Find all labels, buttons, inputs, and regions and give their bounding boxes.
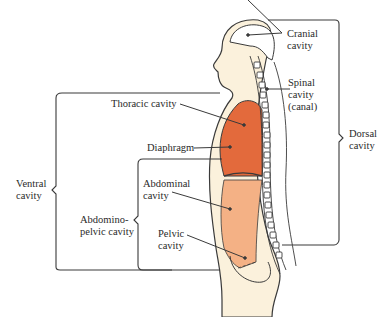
- anatomy-figure: [0, 0, 391, 317]
- label-line: Pelvic: [158, 228, 184, 240]
- label-line: Spinal: [288, 77, 317, 89]
- label-line: cavity: [287, 40, 318, 52]
- dorsal-bracket: [268, 20, 343, 245]
- label-spinal-cavity: Spinal cavity (canal): [288, 77, 317, 113]
- label-thoracic-cavity: Thoracic cavity: [111, 98, 177, 110]
- label-line: Cranial: [287, 28, 318, 40]
- label-line: Abdominal: [143, 178, 190, 190]
- abdominal-cavity-shape: [221, 180, 262, 268]
- label-line: cavity: [158, 240, 184, 252]
- label-line: cavity: [16, 190, 46, 202]
- label-ventral-cavity: Ventral cavity: [16, 178, 46, 202]
- label-line: cavity: [288, 89, 317, 101]
- body-cavities-diagram: Cranial cavity Spinal cavity (canal) Dor…: [0, 0, 391, 317]
- label-line: cavity: [143, 190, 190, 202]
- label-line: cavity: [349, 140, 377, 152]
- label-line: Abdomino-: [80, 214, 134, 226]
- label-dorsal-cavity: Dorsal cavity: [349, 128, 377, 152]
- label-cranial-cavity: Cranial cavity: [287, 28, 318, 52]
- label-line: pelvic cavity: [80, 226, 134, 238]
- ventral-bracket: [52, 93, 220, 270]
- label-abdominal-cavity: Abdominal cavity: [143, 178, 190, 202]
- label-line: Ventral: [16, 178, 46, 190]
- label-pelvic-cavity: Pelvic cavity: [158, 228, 184, 252]
- label-abdominopelvic-cavity: Abdomino- pelvic cavity: [80, 214, 134, 238]
- label-line: (canal): [288, 101, 317, 113]
- abdominopelvic-bracket: [134, 159, 222, 270]
- label-line: Dorsal: [349, 128, 377, 140]
- label-diaphragm: Diaphragm: [147, 142, 194, 154]
